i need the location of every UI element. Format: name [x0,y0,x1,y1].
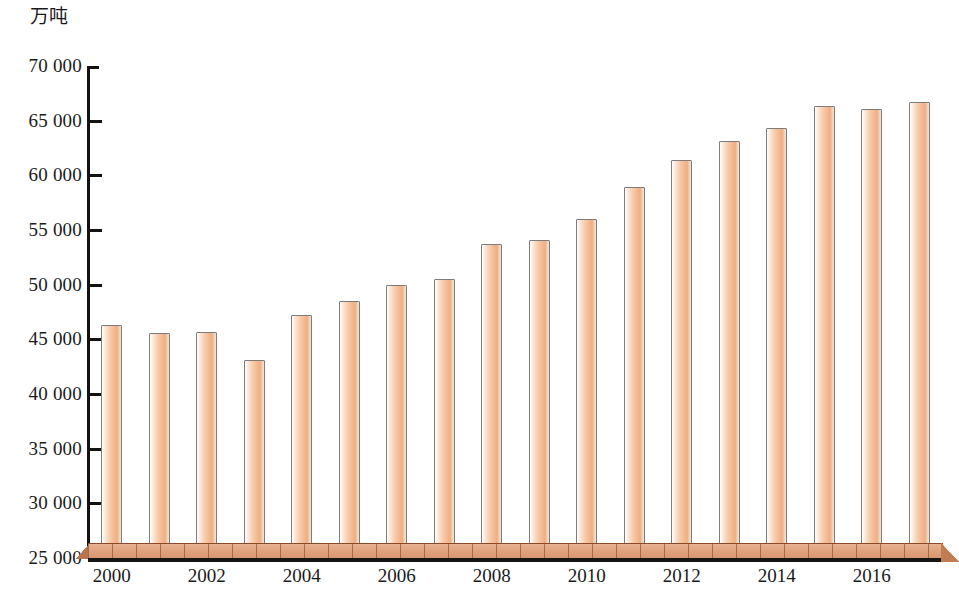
y-axis-tick-label: 30 000 [0,493,82,512]
x-axis-tick-label: 2000 [77,565,147,587]
bar [719,141,740,558]
bar [101,325,122,558]
bar [861,109,882,558]
chart-floor-slab [88,543,943,559]
y-axis-tick-label: 70 000 [0,56,82,75]
x-axis-tick-label: 2006 [362,565,432,587]
y-axis-tick-label: 25 000 [0,548,82,567]
y-axis-tick [90,502,102,505]
bar [386,285,407,558]
y-axis-tick-label: 40 000 [0,384,82,403]
y-axis-tick [90,229,102,232]
bar [671,160,692,558]
bar [291,315,312,558]
bar [149,333,170,558]
bar [434,279,455,558]
y-axis-line [87,66,90,559]
x-axis-tick-label: 2012 [647,565,717,587]
bar [624,187,645,558]
bar [766,128,787,558]
y-axis-tick [90,448,102,451]
x-axis-tick-label: 2008 [457,565,527,587]
bar [909,102,930,558]
y-axis-tick [90,174,102,177]
y-axis-tick-label: 50 000 [0,275,82,294]
bar [529,240,550,558]
y-axis-unit-label: 万吨 [30,4,68,28]
y-axis-tick-label: 45 000 [0,329,82,348]
y-axis-tick [90,393,102,396]
y-axis-tick [90,120,102,123]
floor-right-bevel [941,543,959,562]
y-axis-top-cap [87,66,99,69]
y-axis-tick-label: 35 000 [0,439,82,458]
bar [481,244,502,558]
floor-front-edge [88,558,943,562]
x-axis-tick-label: 2016 [837,565,907,587]
y-axis-tick-label: 65 000 [0,111,82,130]
bar [196,332,217,558]
y-axis-tick-label: 60 000 [0,165,82,184]
x-axis-tick-label: 2002 [172,565,242,587]
bar-chart: 万吨 70 00065 00060 00055 00050 00045 0004… [0,0,959,595]
y-axis-tick-label: 55 000 [0,220,82,239]
y-axis-tick [90,338,102,341]
bar [576,219,597,558]
x-axis-tick-label: 2004 [267,565,337,587]
bar [339,301,360,558]
x-axis-tick-label: 2014 [742,565,812,587]
y-axis-tick [90,284,102,287]
floor-top-surface [88,543,943,559]
bar [814,106,835,558]
x-axis-tick-label: 2010 [552,565,622,587]
bar [244,360,265,558]
